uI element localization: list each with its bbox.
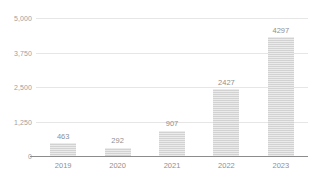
y-axis-tick-label: 3,750 bbox=[14, 49, 32, 56]
y-axis-tick-2500: 2,500 bbox=[0, 84, 32, 91]
bar-value-label: 907 bbox=[166, 120, 179, 128]
bar-value-label: 2427 bbox=[218, 79, 235, 87]
bar-slot-2022: 2427 bbox=[199, 18, 253, 156]
x-axis-line bbox=[30, 156, 308, 157]
y-axis-tick-label: 5,000 bbox=[14, 15, 32, 22]
bar-value-label: 4297 bbox=[272, 27, 289, 35]
y-axis-tick-0: 0 bbox=[0, 153, 32, 160]
bar-value-label: 292 bbox=[111, 137, 124, 145]
bar-slot-2021: 907 bbox=[145, 18, 199, 156]
x-axis-label-2020: 2020 bbox=[90, 162, 144, 170]
x-axis-label-2022: 2022 bbox=[199, 162, 253, 170]
bar-slot-2023: 4297 bbox=[254, 18, 308, 156]
y-axis-tick-label: 2,500 bbox=[14, 84, 32, 91]
bar-value-label: 463 bbox=[57, 133, 70, 141]
bar-slot-2020: 292 bbox=[90, 18, 144, 156]
bar-2023[interactable] bbox=[268, 37, 294, 156]
bar-2022[interactable] bbox=[213, 89, 239, 156]
x-axis-labels: 2019 2020 2021 2022 2023 bbox=[36, 162, 308, 170]
y-axis-tick-5000: 5,000 bbox=[0, 15, 32, 22]
x-axis-label-2019: 2019 bbox=[36, 162, 90, 170]
bar-2020[interactable] bbox=[105, 148, 131, 156]
y-axis-tick-1250: 1,250 bbox=[0, 118, 32, 125]
bar-2021[interactable] bbox=[159, 131, 185, 156]
bar-series: 463 292 907 2427 4297 bbox=[36, 18, 308, 156]
y-axis-tick-3750: 3,750 bbox=[0, 49, 32, 56]
y-axis-tick-label: 1,250 bbox=[14, 118, 32, 125]
x-axis-label-2021: 2021 bbox=[145, 162, 199, 170]
bar-chart: 5,000 3,750 2,500 1,250 0 463 292 907 24… bbox=[0, 0, 316, 183]
bar-slot-2019: 463 bbox=[36, 18, 90, 156]
bar-2019[interactable] bbox=[50, 143, 76, 156]
x-axis-label-2023: 2023 bbox=[254, 162, 308, 170]
